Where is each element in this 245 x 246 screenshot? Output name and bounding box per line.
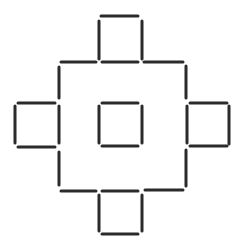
matchstick-diagram — [0, 0, 245, 246]
matchstick-group — [15, 16, 229, 234]
